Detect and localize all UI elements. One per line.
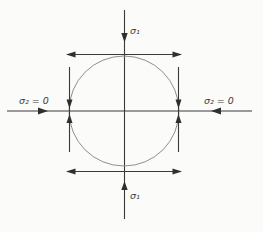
- diagram-canvas: σ₁ σ₁ σ₂ = 0 σ₂ = 0: [0, 0, 263, 232]
- sigma2-right-label: σ₂ = 0: [204, 95, 234, 106]
- sigma1-bottom-label: σ₁: [130, 190, 140, 201]
- sigma1-top-label: σ₁: [130, 25, 140, 36]
- sigma2-left-label: σ₂ = 0: [19, 95, 49, 106]
- uniaxial-stress-circle-diagram: σ₁ σ₁ σ₂ = 0 σ₂ = 0: [0, 0, 263, 232]
